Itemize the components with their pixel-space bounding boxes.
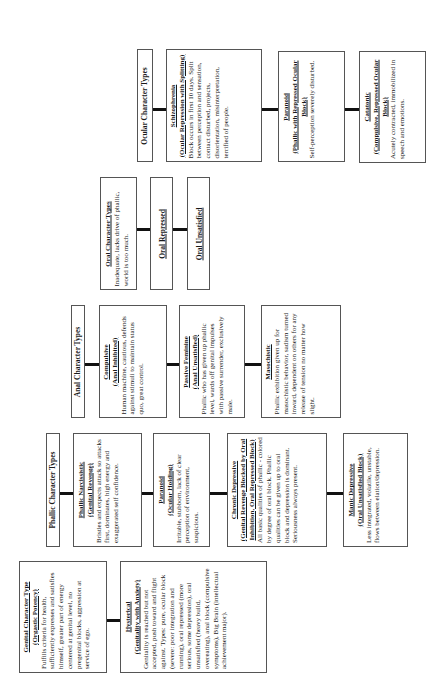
box-title: Oral Repressed [157, 209, 166, 259]
phallic-header-label: Phallic Character Types [48, 451, 57, 528]
connector [60, 492, 73, 495]
box-description: Bristles and expects attack so attacks f… [94, 437, 120, 543]
box-subtitle: (Anal Unsatisfied) [191, 309, 200, 414]
hysterical-box: Hysterical (Genitality with Anxiety) Gen… [120, 561, 267, 673]
ocular-paranoid-box: Paranoid (Phallic with Repressed Ocular … [278, 51, 345, 162]
box-title: Paranoid [156, 437, 165, 543]
box-title: Masochistic [264, 309, 273, 414]
connector [137, 228, 150, 231]
box-description: Self-perception severely disturbed. [307, 55, 316, 158]
box-description: Human machine, cautious, defends against… [120, 309, 146, 414]
box-title: Compulsive [102, 309, 111, 414]
box-description: Block occurs in first 10 days. Split bet… [187, 53, 231, 158]
box-subtitle: (Anal Inhibited) [111, 309, 120, 414]
connector [172, 228, 187, 231]
ocular-header-label: Ocular Character Types [140, 67, 149, 144]
compulsive-box: Compulsive (Anal Inhibited) Human machin… [99, 305, 167, 418]
oral-repressed-box: Oral Repressed [150, 177, 173, 290]
chronic-depressive-box: Chronic Depressive (Genital Revenge Bloc… [227, 433, 327, 547]
box-subtitle: (Genital Revenge) [85, 437, 94, 543]
box-title: Catatonic [362, 55, 371, 159]
box-description: Genitality is reached but not accepted, … [141, 565, 229, 669]
genital-header-box: Genital Character Type (Orgastic Potency… [19, 561, 107, 673]
genital-header-subtitle: (Orgastic Potency) [31, 565, 40, 669]
connector [327, 492, 343, 495]
box-subtitle: (Genital Revenge Blocked by Oral Inhibit… [239, 437, 257, 543]
manic-depressive-box: Manic Depressive (Oral Unsatisfied Block… [343, 433, 408, 547]
connector [107, 619, 120, 622]
connector [245, 363, 261, 366]
box-title: Passive Feminine [182, 309, 191, 414]
oral-header-label: Oral Character Types [103, 181, 112, 286]
box-subtitle: (Ocular Holding) [165, 437, 174, 543]
box-title: Oral Unsatisfied [194, 207, 203, 260]
genital-header-label: Genital Character Type [22, 565, 31, 669]
box-description: Phallic exhibition given up for masochis… [273, 309, 317, 414]
genital-header-description: Fulfills criteria for health, sufficient… [40, 565, 93, 669]
connector [261, 108, 278, 111]
box-subtitle: (Ocular Repression with Splitting) [178, 53, 187, 158]
phallic-narcissistic-box: Phallic Narcissistic (Genital Revenge) B… [73, 433, 142, 547]
connector [152, 108, 166, 111]
oral-unsatisfied-box: Oral Unsatisfied [187, 177, 210, 290]
connector [84, 363, 99, 366]
phallic-paranoid-box: Paranoid (Ocular Holding) Irritable, stu… [153, 433, 210, 547]
box-description: Irritable, stubborn, lack of clear perce… [174, 437, 200, 543]
box-subtitle: (Genitality with Anxiety) [132, 565, 141, 669]
oral-header-box: Oral Character Types Inadequate, lacks d… [100, 177, 137, 290]
box-description: Less integrated, volatile, unstable, flo… [364, 437, 382, 543]
box-subtitle: (Oral Unsatisfied Block) [355, 437, 364, 543]
passive-feminine-box: Passive Feminine (Anal Unsatisfied) Phal… [179, 305, 245, 418]
anal-header-label: Anal Character Types [73, 326, 82, 396]
anal-header-box: Anal Character Types [71, 305, 85, 418]
box-title: Manic Depressive [346, 437, 355, 543]
oral-header-description: Inadequate, lacks drive of phallic, worl… [112, 181, 130, 286]
connector [142, 492, 153, 495]
box-title: Phallic Narcissistic [76, 437, 85, 543]
box-subtitle: (Compulsive, Repressed Ocular Block) [371, 55, 389, 159]
connector [210, 492, 227, 495]
ocular-header-box: Ocular Character Types [137, 49, 153, 162]
catatonic-box: Catatonic (Compulsive, Repressed Ocular … [359, 51, 426, 163]
box-title: Chronic Depressive [230, 437, 239, 543]
box-title: Paranoid [281, 55, 290, 158]
connector [344, 108, 359, 111]
box-description: All basic qualities of phallic - colored… [256, 437, 300, 543]
box-subtitle: (Phallic with Repressed Ocular Block) [290, 55, 308, 158]
box-title: Hysterical [123, 565, 132, 669]
box-title: Schizophrenia [169, 53, 178, 158]
connector [167, 363, 179, 366]
masochistic-box: Masochistic Phallic exhibition given up … [261, 305, 341, 418]
phallic-header-box: Phallic Character Types [46, 433, 60, 547]
box-description: Acutely contracted, immobilized in speec… [388, 55, 406, 159]
schizophrenia-box: Schizophrenia (Ocular Repression with Sp… [166, 49, 262, 162]
box-description: Phallic who has given up phallic level, … [200, 309, 235, 414]
